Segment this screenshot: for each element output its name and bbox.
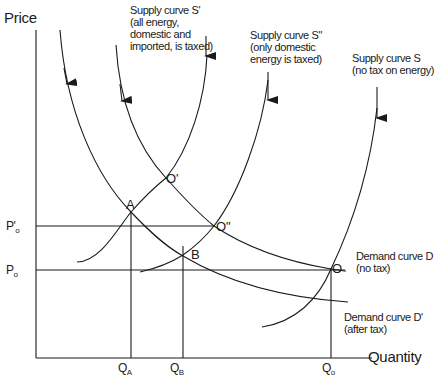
tick-sub: o xyxy=(15,226,19,235)
supply-curve-s xyxy=(262,108,377,327)
label-line: imported, is taxed) xyxy=(130,40,213,52)
label-line: Supply curve S' xyxy=(130,4,213,16)
label-line: (no tax on energy) xyxy=(352,64,434,76)
label-line: (after tax) xyxy=(344,323,423,335)
label-line: Demand curve D' xyxy=(344,311,423,323)
point-label-o-prime: O' xyxy=(166,172,179,185)
tick-sub: o xyxy=(331,368,335,377)
label-line: domestic and xyxy=(130,28,213,40)
quantity-tick-qb: QB xyxy=(170,362,184,379)
label-line: Supply curve S xyxy=(352,52,434,64)
quantity-tick-qa: QA xyxy=(118,362,132,379)
tick-main: Q xyxy=(322,361,331,375)
price-tick-p-o: Po xyxy=(6,264,17,281)
label-line: energy is taxed) xyxy=(250,53,322,65)
label-line: Supply curve S" xyxy=(250,29,322,41)
label-supply-s-double-prime: Supply curve S" (only domestic energy is… xyxy=(250,29,322,65)
tick-main: P xyxy=(6,219,14,233)
label-demand-d: Demand curve D (no tax) xyxy=(356,250,433,274)
point-label-b: B xyxy=(191,248,200,261)
price-tick-p-prime-o: P'o xyxy=(6,220,19,237)
label-supply-s-prime: Supply curve S' (all energy, domestic an… xyxy=(130,4,213,52)
supply-curve-s-prime xyxy=(77,55,207,262)
supply-curve-s-double-prime xyxy=(140,80,268,272)
label-line: (all energy, xyxy=(130,16,213,28)
x-axis-label: Quantity xyxy=(368,349,421,365)
tick-sub: o xyxy=(14,270,18,279)
label-line: (no tax) xyxy=(356,262,433,274)
label-line: (only domestic xyxy=(250,41,322,53)
label-supply-s: Supply curve S (no tax on energy) xyxy=(352,52,434,76)
label-demand-d-prime: Demand curve D' (after tax) xyxy=(344,311,423,335)
tick-sub: A xyxy=(127,368,132,377)
point-label-o-double-prime: O" xyxy=(216,220,231,233)
point-label-o: O xyxy=(332,262,342,275)
y-axis-label: Price xyxy=(4,10,37,26)
tick-main: Q xyxy=(170,361,179,375)
demand-curve-d-prime xyxy=(60,30,348,302)
label-line: Demand curve D xyxy=(356,250,433,262)
demand-curve-d xyxy=(116,45,346,271)
point-label-a: A xyxy=(126,198,135,211)
tick-sub: B xyxy=(179,368,184,377)
tick-main: Q xyxy=(118,361,127,375)
tick-main: P xyxy=(6,263,14,277)
quantity-tick-qo: Qo xyxy=(322,362,335,379)
